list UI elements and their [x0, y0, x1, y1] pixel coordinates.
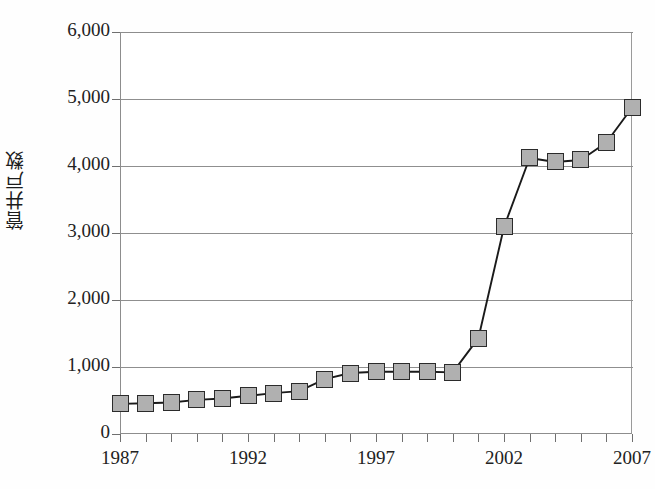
x-tick-mark-1989	[171, 434, 172, 442]
x-tick-mark-1992	[248, 434, 249, 442]
y-tick-mark-1000	[112, 367, 120, 368]
y-tick-label-4000: 4,000	[36, 153, 110, 175]
data-point-2007	[624, 99, 641, 116]
data-point-2002	[496, 218, 513, 235]
data-point-2000	[444, 364, 461, 381]
y-tick-label-5000: 5,000	[36, 86, 110, 108]
data-point-1989	[163, 394, 180, 411]
y-tick-mark-3000	[112, 233, 120, 234]
gridline-6000	[121, 32, 633, 33]
data-point-1988	[137, 395, 154, 412]
data-point-2003	[521, 149, 538, 166]
data-point-1996	[342, 365, 359, 382]
y-tick-mark-0	[112, 434, 120, 435]
x-tick-mark-1999	[427, 434, 428, 442]
x-tick-mark-1991	[222, 434, 223, 442]
data-point-2005	[572, 151, 589, 168]
x-tick-mark-2001	[478, 434, 479, 442]
y-tick-mark-6000	[112, 32, 120, 33]
x-tick-label-1992: 1992	[213, 447, 283, 469]
data-point-1994	[291, 383, 308, 400]
gridline-3000	[121, 233, 633, 234]
x-tick-mark-1987	[120, 434, 121, 442]
gridline-2000	[121, 300, 633, 301]
gridline-5000	[121, 99, 633, 100]
x-tick-mark-2006	[606, 434, 607, 442]
data-point-2001	[470, 330, 487, 347]
y-tick-label-1000: 1,000	[36, 354, 110, 376]
x-tick-label-1987: 1987	[85, 447, 155, 469]
y-tick-label-6000: 6,000	[36, 19, 110, 41]
x-tick-mark-2004	[555, 434, 556, 442]
x-tick-mark-1995	[325, 434, 326, 442]
y-tick-label-3000: 3,000	[36, 220, 110, 242]
data-point-2006	[598, 134, 615, 151]
x-tick-mark-1996	[350, 434, 351, 442]
chart-figure: 管井戸数 01,0002,0003,0004,0005,0006,000 198…	[0, 0, 655, 489]
y-axis-title: 管井戸数	[6, 150, 40, 230]
x-tick-mark-2005	[581, 434, 582, 442]
x-tick-mark-2007	[632, 434, 633, 442]
data-point-1997	[368, 363, 385, 380]
data-point-1991	[214, 390, 231, 407]
y-tick-label-0: 0	[36, 421, 110, 443]
x-tick-mark-1997	[376, 434, 377, 442]
x-tick-label-1997: 1997	[341, 447, 411, 469]
data-point-2004	[547, 153, 564, 170]
x-tick-mark-1990	[197, 434, 198, 442]
data-point-1998	[393, 363, 410, 380]
x-tick-mark-1998	[402, 434, 403, 442]
x-tick-mark-1993	[274, 434, 275, 442]
x-tick-mark-1994	[299, 434, 300, 442]
x-tick-label-2002: 2002	[469, 447, 539, 469]
data-point-1990	[188, 391, 205, 408]
y-tick-mark-5000	[112, 99, 120, 100]
x-tick-mark-2003	[530, 434, 531, 442]
y-tick-mark-2000	[112, 300, 120, 301]
data-point-1999	[419, 363, 436, 380]
y-tick-label-2000: 2,000	[36, 287, 110, 309]
x-tick-mark-2002	[504, 434, 505, 442]
x-tick-mark-1988	[146, 434, 147, 442]
data-point-1987	[112, 395, 129, 412]
data-point-1995	[316, 371, 333, 388]
x-tick-label-2007: 2007	[597, 447, 655, 469]
data-point-1993	[265, 385, 282, 402]
x-tick-mark-2000	[453, 434, 454, 442]
data-point-1992	[240, 387, 257, 404]
y-tick-mark-4000	[112, 166, 120, 167]
